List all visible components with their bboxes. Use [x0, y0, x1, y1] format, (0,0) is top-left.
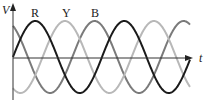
y-axis-arrowhead [10, 3, 16, 11]
waveform-curves [13, 21, 190, 93]
series-label-b: B [91, 7, 99, 19]
x-axis-label: t [199, 52, 202, 64]
series-label-y: Y [62, 7, 71, 19]
y-axis-label: V [2, 4, 9, 16]
series-label-r: R [31, 7, 39, 19]
